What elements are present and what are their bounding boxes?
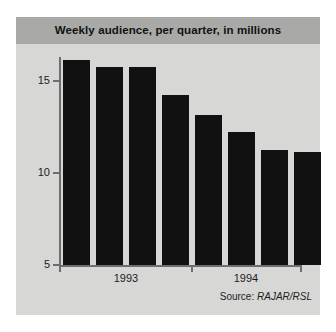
y-axis-line — [59, 57, 61, 266]
y-tick-label-5: 5 — [18, 258, 50, 270]
bar-1994-q2 — [228, 132, 255, 265]
chart-title: Weekly audience, per quarter, in million… — [16, 17, 320, 44]
y-tick-label-15: 15 — [18, 74, 50, 86]
bar-1994-q4 — [294, 152, 321, 265]
y-tick-mark-15 — [53, 80, 60, 82]
y-tick-mark-10 — [53, 172, 60, 174]
source-value: RAJAR/RSL — [257, 291, 312, 302]
bar-1994-q1 — [195, 115, 222, 265]
bar-1993-q2 — [96, 67, 123, 265]
bar-1993-q3 — [129, 67, 156, 265]
x-tick-divider — [191, 265, 193, 272]
chart-figure: Weekly audience, per quarter, in million… — [0, 0, 336, 332]
x-group-label-1993: 1993 — [96, 272, 156, 284]
bar-1993-q1 — [63, 60, 90, 265]
bar-1994-q3 — [261, 150, 288, 265]
x-tick-start — [59, 265, 61, 272]
bar-1993-q4 — [162, 95, 189, 265]
x-axis-line — [59, 265, 302, 267]
x-group-label-1994: 1994 — [216, 272, 276, 284]
source-label: Source: — [220, 291, 257, 302]
source-note: Source: RAJAR/RSL — [160, 291, 312, 302]
chart-title-band: Weekly audience, per quarter, in million… — [16, 17, 320, 44]
x-tick-end — [300, 265, 302, 272]
y-tick-label-10: 10 — [18, 166, 50, 178]
